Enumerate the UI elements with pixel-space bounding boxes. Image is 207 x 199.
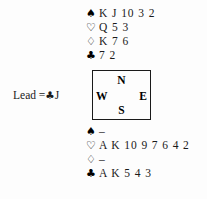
south-diamonds-row: ♢ – xyxy=(86,152,190,166)
bridge-hand-diagram: ♠ K J 10 3 2 ♡ Q 5 3 ♢ K 7 6 ♣ 7 2 N W E… xyxy=(0,0,207,199)
club-suit-icon: ♣ xyxy=(86,167,99,181)
compass-label-south: S xyxy=(93,104,150,116)
compass-label-east: E xyxy=(139,90,147,102)
diamond-suit-icon: ♢ xyxy=(86,35,99,49)
north-clubs-row: ♣ 7 2 xyxy=(86,48,155,62)
north-hearts-row: ♡ Q 5 3 xyxy=(86,20,155,34)
south-diamonds-cards: – xyxy=(99,152,105,166)
heart-suit-icon: ♡ xyxy=(86,139,99,153)
club-suit-icon: ♣ xyxy=(45,89,54,101)
north-diamonds-cards: K 7 6 xyxy=(99,34,129,48)
south-clubs-row: ♣ A K 5 4 3 xyxy=(86,166,190,180)
north-hearts-cards: Q 5 3 xyxy=(99,20,129,34)
compass-label-west: W xyxy=(96,90,108,102)
south-hearts-cards: A K 10 9 7 6 4 2 xyxy=(99,138,190,152)
spade-suit-icon: ♠ xyxy=(86,125,99,139)
lead-label: Lead =♣J xyxy=(13,88,59,102)
south-spades-cards: – xyxy=(99,124,105,138)
north-hand: ♠ K J 10 3 2 ♡ Q 5 3 ♢ K 7 6 ♣ 7 2 xyxy=(86,6,155,62)
south-clubs-cards: A K 5 4 3 xyxy=(99,166,152,180)
north-spades-row: ♠ K J 10 3 2 xyxy=(86,6,155,20)
heart-suit-icon: ♡ xyxy=(86,21,99,35)
lead-label-text: Lead = xyxy=(13,89,45,101)
lead-card-rank: J xyxy=(55,89,59,101)
diamond-suit-icon: ♢ xyxy=(86,153,99,167)
south-hearts-row: ♡ A K 10 9 7 6 4 2 xyxy=(86,138,190,152)
north-diamonds-row: ♢ K 7 6 xyxy=(86,34,155,48)
compass-box: N W E S xyxy=(92,70,151,120)
spade-suit-icon: ♠ xyxy=(86,7,99,21)
south-hand: ♠ – ♡ A K 10 9 7 6 4 2 ♢ – ♣ A K 5 4 3 xyxy=(86,124,190,180)
club-suit-icon: ♣ xyxy=(86,49,99,63)
north-spades-cards: K J 10 3 2 xyxy=(99,6,155,20)
north-clubs-cards: 7 2 xyxy=(99,48,116,62)
compass-label-north: N xyxy=(93,74,150,86)
south-spades-row: ♠ – xyxy=(86,124,190,138)
